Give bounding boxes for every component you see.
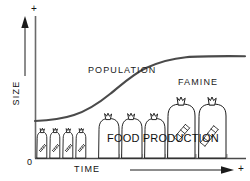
food-sack-small-1 bbox=[37, 128, 47, 158]
food-sack-small-4 bbox=[76, 128, 86, 158]
origin-label: 0 bbox=[27, 157, 32, 167]
population-food-production-diagram: + SIZE 0 TIME + POPULATION FAMINE FOOD P… bbox=[0, 0, 250, 181]
y-axis-plus-marker: + bbox=[31, 3, 37, 14]
food-sack-small-2 bbox=[50, 128, 60, 158]
food-sack-large-2 bbox=[199, 97, 226, 158]
y-axis-arrow-icon bbox=[21, 16, 28, 76]
food-production-sacks-large bbox=[168, 97, 226, 158]
food-production-label: FOOD PRODUCTION bbox=[107, 132, 219, 144]
x-axis-arrow-icon bbox=[130, 166, 234, 174]
diagram-canvas bbox=[0, 0, 250, 181]
x-axis-label: TIME bbox=[74, 164, 100, 174]
food-sack-large-1 bbox=[168, 97, 195, 158]
population-curve-label: POPULATION bbox=[88, 65, 156, 75]
food-production-sacks-small bbox=[37, 128, 86, 158]
famine-label: FAMINE bbox=[178, 77, 218, 87]
food-sack-small-3 bbox=[63, 128, 73, 158]
y-axis-label: SIZE bbox=[11, 71, 21, 115]
x-axis-plus-marker: + bbox=[238, 163, 244, 174]
